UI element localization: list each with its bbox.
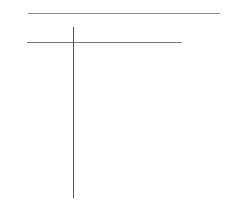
second-horizontal-line xyxy=(27,42,182,43)
diagram-canvas xyxy=(0,0,236,220)
top-horizontal-line xyxy=(28,13,220,14)
vertical-line xyxy=(73,27,74,198)
